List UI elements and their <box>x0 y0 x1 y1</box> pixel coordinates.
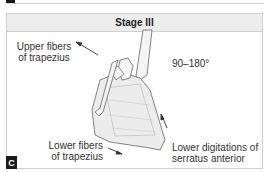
label-upper-trapezius: Upper fibers of trapezius <box>13 41 75 63</box>
label-lower-trapezius: Lower fibers of trapezius <box>45 140 103 162</box>
label-serratus-anterior: Lower digitations of serratus anterior <box>172 142 258 164</box>
panel-letter-badge: C <box>6 156 17 169</box>
label-angle: 90–180° <box>172 58 209 69</box>
